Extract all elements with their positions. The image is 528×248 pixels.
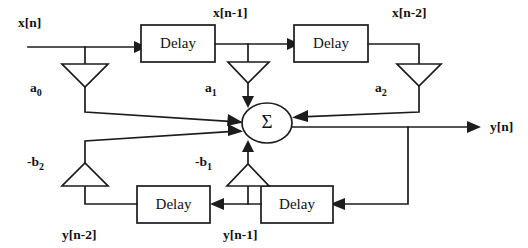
- label-x-n-2: x[n-2]: [392, 6, 427, 20]
- label-y-n-2: y[n-2]: [62, 228, 97, 242]
- label-gain-b2: -b2: [27, 155, 44, 172]
- arrowhead-gain-b2-to-sum: [228, 124, 243, 136]
- wire-delay-x2-to-gain-a2: [368, 44, 419, 64]
- delay-block-y1-label: Delay: [279, 196, 315, 212]
- gain-triangle-a2: [397, 64, 441, 86]
- wire-gain-a2-to-sum: [296, 86, 419, 117]
- wire-gain-a0-to-sum: [85, 87, 240, 122]
- gain-triangle-a0: [62, 64, 108, 87]
- label-gain-b1-base: -b: [195, 154, 207, 169]
- arrowhead-output: [467, 121, 481, 133]
- label-gain-a2: a2: [375, 81, 387, 98]
- arrowhead-gain-b1-to-sum: [242, 140, 254, 152]
- label-gain-a1: a1: [205, 81, 217, 98]
- summing-node-label: Σ: [261, 111, 272, 132]
- diagram-canvas: Delay Delay Σ: [0, 0, 528, 248]
- delay-block-y2-label: Delay: [156, 196, 192, 212]
- wire-gain-b2-to-sum: [85, 131, 240, 163]
- label-x-n-1: x[n-1]: [213, 6, 248, 20]
- label-gain-a1-base: a: [205, 80, 212, 95]
- label-gain-a0: a0: [30, 81, 42, 98]
- delay-block-x1-label: Delay: [160, 35, 196, 51]
- label-gain-b1: -b1: [195, 155, 212, 172]
- label-y-n-1: y[n-1]: [223, 228, 258, 242]
- delay-block-x2-label: Delay: [313, 35, 349, 51]
- arrowhead-gain-a0-to-sum: [227, 114, 243, 126]
- label-gain-b2-base: -b: [27, 154, 39, 169]
- label-input-x-n: x[n]: [18, 16, 41, 30]
- label-gain-a2-base: a: [375, 80, 382, 95]
- label-output-y-n: y[n]: [490, 120, 513, 134]
- arrowhead-delay-y1-to-delay-y2: [210, 198, 224, 210]
- label-gain-a0-base: a: [30, 80, 37, 95]
- label-gain-a1-sub: 1: [212, 87, 217, 98]
- label-gain-b1-sub: 1: [207, 161, 212, 172]
- wire-delay-y2-to-gain-b2: [85, 186, 137, 204]
- label-gain-b2-sub: 2: [39, 161, 44, 172]
- gain-triangle-b1: [227, 164, 269, 186]
- arrowhead-gain-a2-to-sum: [292, 110, 308, 122]
- gain-triangle-b2: [62, 163, 108, 186]
- label-gain-a0-sub: 0: [37, 87, 42, 98]
- wire-output-feedback-tap: [333, 127, 408, 204]
- label-gain-a2-sub: 2: [382, 87, 387, 98]
- signal-flow-diagram: Delay Delay Σ: [0, 0, 528, 248]
- gain-triangle-a1: [228, 62, 269, 83]
